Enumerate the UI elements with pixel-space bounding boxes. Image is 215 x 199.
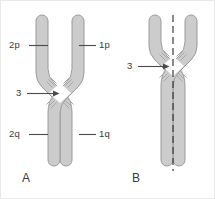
diagram-canvas: [1, 1, 215, 199]
callout-label-3-a: 3: [16, 87, 21, 98]
chromosome-diagram-figure: 2p 1p 3 2q 1q 3 A B: [0, 0, 215, 199]
callout-label-1q: 1q: [99, 128, 110, 139]
panel-label-a: A: [22, 171, 30, 185]
callout-label-3-b: 3: [127, 60, 132, 71]
callout-label-1p: 1p: [99, 39, 110, 50]
panel-a-chromosome: [36, 15, 84, 166]
callout-label-2q: 2q: [9, 128, 20, 139]
callout-label-2p: 2p: [9, 39, 20, 50]
panel-label-b: B: [132, 171, 140, 185]
panel-b-chromosome: [149, 15, 197, 171]
